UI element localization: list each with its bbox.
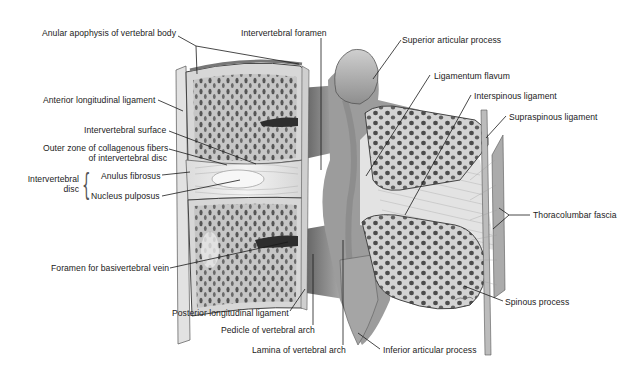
label-outer-zone-line1: Outer zone of collagenous fibers [43, 143, 167, 153]
label-foramen-basivertebral-vein: Foramen for basivertebral vein [51, 263, 169, 273]
label-ligamentum-flavum: Ligamentum flavum [434, 71, 510, 81]
label-intervertebral-disc-line1: Intervertebral [25, 174, 79, 184]
thoracolumbar-fascia-shape [492, 135, 505, 298]
label-outer-zone: Outer zone of collagenous fibers of inte… [43, 143, 167, 163]
label-intervertebral-surface: Intervertebral surface [84, 125, 166, 135]
label-anulus-fibrosus: Anulus fibrosus [101, 171, 161, 181]
label-lamina-vertebral-arch: Lamina of vertebral arch [252, 345, 346, 355]
label-anular-apophysis: Anular apophysis of vertebral body [42, 28, 176, 38]
superior-articular-process-shape [335, 49, 378, 104]
brace-icon: { [82, 170, 91, 200]
label-superior-articular-process: Superior articular process [402, 35, 501, 45]
label-intervertebral-disc-line2: disc [25, 184, 79, 194]
label-interspinous-ligament: Interspinous ligament [474, 91, 557, 101]
label-intervertebral-disc: Intervertebral disc [25, 174, 79, 194]
label-inferior-articular-process: Inferior articular process [383, 345, 476, 355]
label-posterior-longitudinal-ligament: Posterior longitudinal ligament [172, 308, 289, 318]
label-supraspinous-ligament: Supraspinous ligament [509, 112, 597, 122]
nucleus-pulposus-shape [212, 170, 264, 188]
label-pedicle-vertebral-arch: Pedicle of vertebral arch [221, 325, 315, 335]
label-spinous-process: Spinous process [505, 297, 569, 307]
label-anterior-longitudinal-ligament: Anterior longitudinal ligament [43, 95, 155, 105]
label-thoracolumbar-fascia: Thoracolumbar fascia [533, 210, 617, 220]
label-outer-zone-line2: of intervertebral disc [43, 153, 167, 163]
label-nucleus-pulposus: Nucleus pulposus [91, 191, 160, 201]
anatomy-figure: Anular apophysis of vertebral body Inter… [0, 0, 639, 374]
label-intervertebral-foramen: Intervertebral foramen [241, 28, 327, 38]
vertebra-illustration [0, 0, 639, 374]
